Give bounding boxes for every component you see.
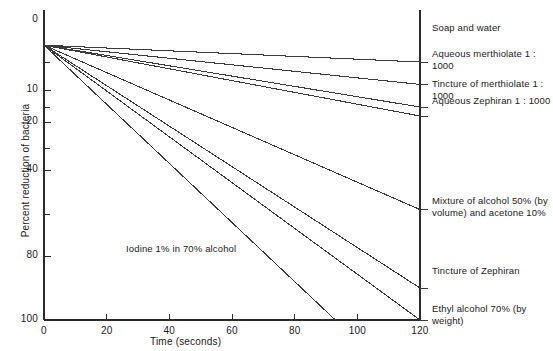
series-label-iodine: Iodine 1% in 70% alcohol xyxy=(126,243,236,254)
x-tick-label-120: 120 xyxy=(405,325,435,336)
x-tick-label-100: 100 xyxy=(342,325,372,336)
series-label-3: Aqueous Zephiran 1 : 1000 xyxy=(432,95,550,107)
y-axis-title: Percent reduction of bacteria xyxy=(20,91,31,251)
series-label-5: Tincture of Zephiran xyxy=(432,265,520,277)
axis-frame xyxy=(44,10,420,320)
y-tick-label-100: 100 xyxy=(6,313,38,324)
series-label-0: Soap and water xyxy=(432,22,501,34)
chart-figure: 010204080100 020406080100120 Soap and wa… xyxy=(0,0,553,351)
x-axis-title: Time (seconds) xyxy=(150,336,221,347)
x-tick-label-20: 20 xyxy=(92,325,122,336)
series-label-1: Aqueous merthiolate 1 : 1000 xyxy=(432,48,553,71)
y-tick-label-0: 0 xyxy=(6,13,38,24)
x-tick-label-40: 40 xyxy=(154,325,184,336)
x-tick-label-0: 0 xyxy=(29,325,59,336)
y-axis-ticks xyxy=(44,62,51,256)
series-label-4: Mixture of alcohol 50% (by volume) and a… xyxy=(432,195,548,218)
x-axis-ticks xyxy=(107,314,358,320)
series-label-6: Ethyl alcohol 70% (by weight) xyxy=(432,303,553,326)
series-lines xyxy=(44,45,428,320)
x-tick-label-80: 80 xyxy=(280,325,310,336)
x-tick-label-60: 60 xyxy=(217,325,247,336)
y-tick-label-80: 80 xyxy=(6,249,38,260)
